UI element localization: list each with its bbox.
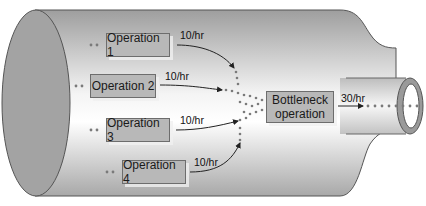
bottleneck-label-line1: Bottleneck — [272, 93, 328, 107]
operation-3-box: Operation 3 — [106, 118, 170, 142]
operation-1-label: Operation 1 — [107, 31, 169, 59]
bottleneck-operation-box: Bottleneck operation — [266, 91, 334, 123]
operation-4-label: Operation 4 — [123, 158, 185, 186]
operation-4-box: Operation 4 — [122, 160, 186, 184]
operation-2-label: Operation 2 — [92, 79, 155, 93]
operation-3-rate: 10/hr — [180, 114, 204, 126]
operation-4-rate: 10/hr — [194, 156, 218, 168]
operation-2-rate: 10/hr — [165, 70, 189, 82]
bottleneck-label-line2: operation — [275, 107, 325, 121]
operation-1-box: Operation 1 — [106, 33, 170, 57]
operation-3-label: Operation 3 — [107, 116, 169, 144]
operation-1-rate: 10/hr — [180, 29, 204, 41]
operation-2-box: Operation 2 — [90, 74, 156, 98]
bottleneck-diagram: Operation 1 10/hr Operation 2 10/hr Oper… — [0, 0, 426, 206]
output-rate: 30/hr — [341, 92, 365, 104]
